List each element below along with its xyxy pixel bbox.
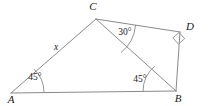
geometry-diagram: A B C D x 45° 45° 30° — [0, 0, 210, 106]
angle-label-a: 45° — [28, 72, 42, 82]
angle-label-b: 45° — [133, 74, 147, 84]
right-angle-marker-d-hyp — [173, 33, 179, 38]
side-label-x: x — [53, 42, 59, 52]
angle-label-c: 30° — [118, 27, 132, 37]
vertex-label-C: C — [89, 0, 97, 12]
right-angle-marker-d — [173, 38, 185, 44]
edge-DB — [176, 32, 180, 91]
vertex-label-B: B — [175, 92, 182, 104]
vertex-label-D: D — [185, 20, 194, 32]
vertex-label-A: A — [7, 93, 15, 105]
edge-AB — [11, 91, 176, 93]
edge-AC — [11, 19, 96, 93]
